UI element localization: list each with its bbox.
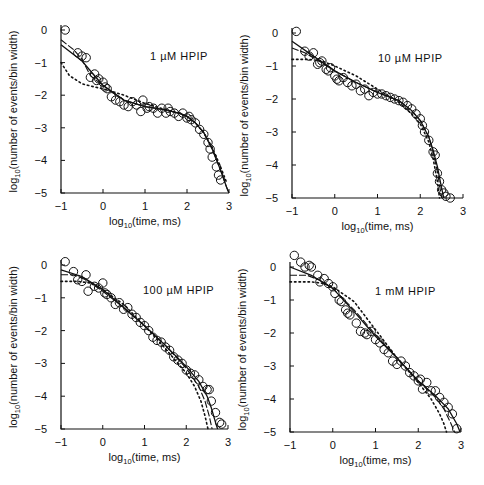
data-point-circle [307,263,315,271]
y-tick-label: −5 [34,187,47,199]
y-tick-label: −4 [34,390,47,402]
y-tick-label: −3 [34,122,47,134]
data-point-circle [216,418,224,426]
x-axis-label: log10(time, ms) [340,454,412,469]
data-point-circle [214,171,222,179]
y-tick-label: −4 [265,159,278,171]
y-tick-label: −1 [34,57,47,69]
y-tick-label: −3 [34,357,47,369]
y-axis-label: log10(number of events/bin width) [236,269,251,431]
x-tick-label: 3 [460,205,466,217]
y-tick-label: 0 [41,259,47,271]
y-axis-label: log10(number of events/bin width) [7,31,22,193]
y-tick-label: 0 [272,27,278,39]
data-point-circle [412,110,420,118]
y-tick-label: −2 [263,327,276,339]
y-tick-label: −4 [263,393,276,405]
y-tick-label: −1 [265,60,278,72]
x-axis-label: log10(time, ms) [109,215,181,230]
x-tick-label: 0 [100,436,106,448]
panel-title: 100 µM HPIP [143,284,214,296]
y-tick-label: −4 [34,154,47,166]
fit-dotted-curve [290,282,447,432]
y-axis-label: log10(number of events/bin width) [238,35,253,197]
x-tick-label: 2 [417,205,423,217]
x-tick-label: −1 [284,439,297,451]
data-point-circle [61,258,69,266]
y-tick-label: −5 [34,423,47,435]
panel-title: 1 mM HPIP [375,285,436,297]
panel-1mM: 1 mM HPIP −101230−1−2−3−4−5log10(time, m… [236,251,464,469]
data-point-circle [346,311,354,319]
x-tick-label: 2 [415,439,421,451]
x-tick-label: −1 [55,200,68,212]
y-tick-label: −2 [34,89,47,101]
x-tick-label: −1 [286,205,299,217]
data-point-circle [137,107,145,115]
y-tick-label: 0 [270,261,276,273]
data-point-circle [290,251,298,259]
x-tick-label: 1 [374,205,380,217]
fit-dashed-curve [61,275,212,429]
y-tick-label: −3 [265,126,278,138]
fit-dotted-curve [292,59,440,198]
data-points [290,251,461,433]
data-point-circle [297,258,305,266]
fit-dotted-curve [61,281,208,429]
panel-title: 1 µM HPIP [150,50,208,62]
x-tick-label: 0 [100,200,106,212]
y-tick-label: 0 [41,24,47,36]
panel-100uM: 100 µM HPIP −101230−1−2−3−4−5log10(time,… [7,258,231,467]
panel-title: 10 µM HPIP [378,52,443,64]
panel-10uM: 10 µM HPIP −101230−1−2−3−4−5log10(time, … [238,27,466,235]
y-tick-label: −5 [265,192,278,204]
x-axis-label: log10(time, ms) [109,451,181,466]
y-tick-label: −2 [34,325,47,337]
figure-2x2-dwell-time-histograms: 1 µM HPIP −101230−1−2−3−4−5log10(time, m… [0,0,484,485]
y-tick-label: −2 [265,93,278,105]
y-tick-label: −5 [263,426,276,438]
x-tick-label: 2 [183,436,189,448]
x-tick-label: 0 [330,439,336,451]
x-tick-label: −1 [55,436,68,448]
x-tick-label: 3 [226,200,232,212]
x-tick-label: 2 [184,200,190,212]
y-tick-label: −3 [263,360,276,372]
fit-dotted-curve [61,63,227,184]
panel-1uM: 1 µM HPIP −101230−1−2−3−4−5log10(time, m… [7,24,232,230]
fit-solid-curve [292,41,444,198]
fit-dashed-curve [290,275,455,432]
x-tick-label: 1 [372,439,378,451]
y-axis-label: log10(number of events/bin width) [7,266,22,428]
data-point-circle [292,27,300,35]
x-tick-label: 1 [142,200,148,212]
x-axis-label: log10(time, ms) [342,220,414,235]
data-point-circle [423,378,431,386]
fit-dashed-curve [61,40,229,193]
data-point-circle [82,271,90,279]
x-tick-label: 1 [141,436,147,448]
y-tick-label: −1 [263,294,276,306]
data-point-circle [352,319,360,327]
data-point-circle [218,420,226,428]
x-tick-label: 3 [458,439,464,451]
x-tick-label: 3 [225,436,231,448]
y-tick-label: −1 [34,292,47,304]
x-tick-label: 0 [332,205,338,217]
